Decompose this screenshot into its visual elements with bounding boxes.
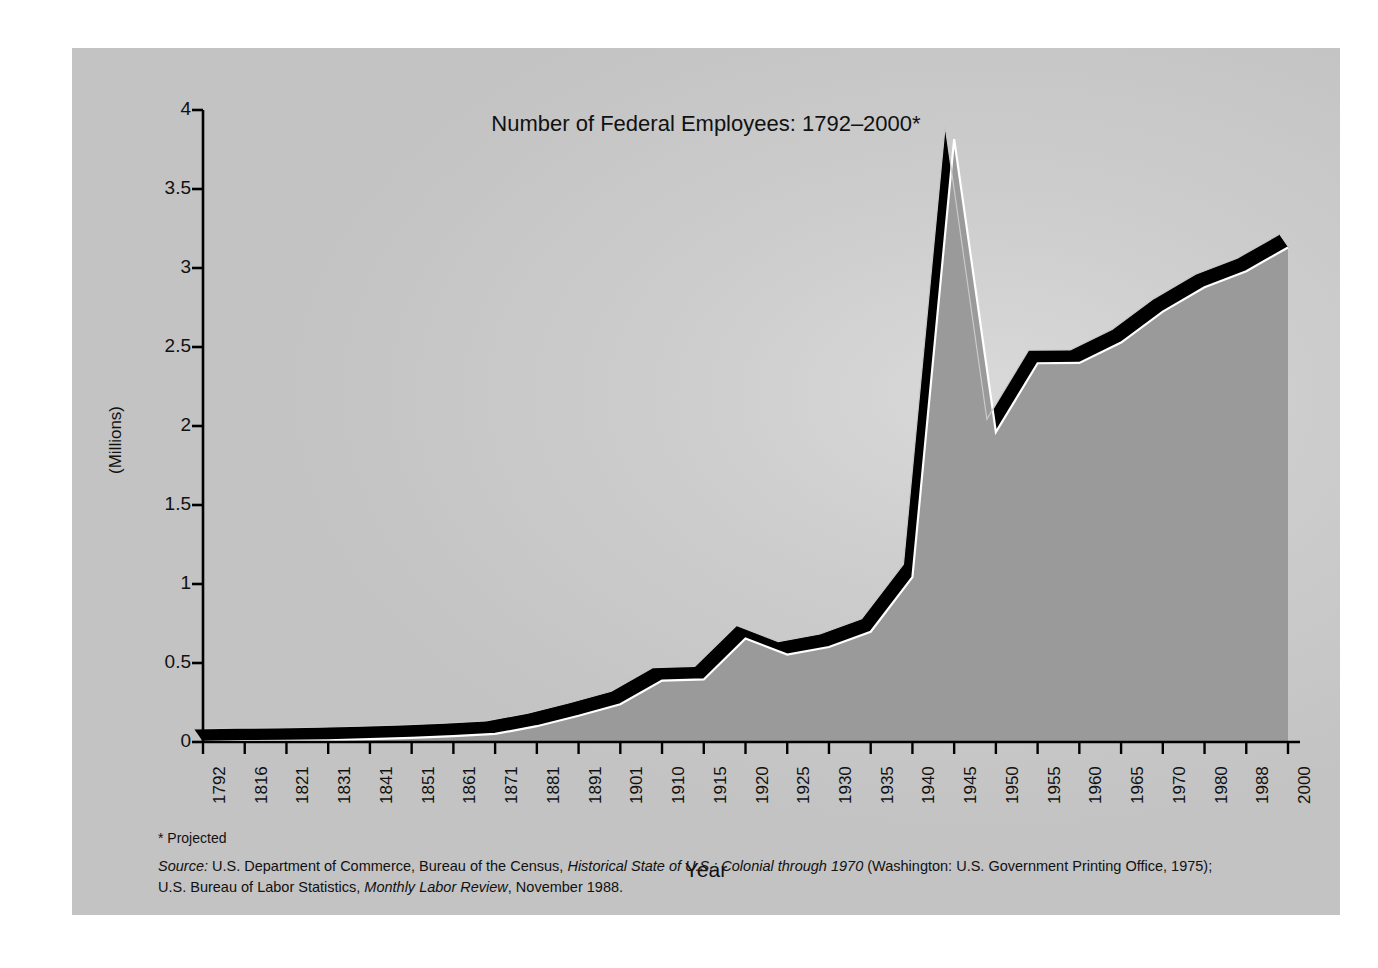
source-line-2: U.S. Bureau of Labor Statistics, Monthly… bbox=[158, 877, 1338, 898]
projected-footnote: * Projected bbox=[158, 830, 226, 846]
x-tick-label: 1980 bbox=[1212, 766, 1232, 804]
x-tick-label: 1851 bbox=[419, 766, 439, 804]
y-tick-label: 0 bbox=[131, 730, 191, 752]
y-tick-label: 0.5 bbox=[131, 651, 191, 673]
x-tick-label: 1935 bbox=[878, 766, 898, 804]
source-title-1: Historical State of U.S.: Colonial throu… bbox=[567, 858, 863, 874]
source-title-2: Monthly Labor Review bbox=[364, 879, 507, 895]
x-tick-label: 1988 bbox=[1253, 766, 1273, 804]
y-tick-label: 3 bbox=[131, 256, 191, 278]
source-line-2a: U.S. Bureau of Labor Statistics, bbox=[158, 879, 364, 895]
x-tick-label: 1960 bbox=[1086, 766, 1106, 804]
x-tick-label: 1792 bbox=[210, 766, 230, 804]
y-tick-label: 3.5 bbox=[131, 177, 191, 199]
x-tick-label: 1821 bbox=[293, 766, 313, 804]
y-tick-label: 4 bbox=[131, 98, 191, 120]
x-tick-label: 1950 bbox=[1003, 766, 1023, 804]
source-citation: Source: U.S. Department of Commerce, Bur… bbox=[158, 856, 1338, 898]
source-line-1: Source: U.S. Department of Commerce, Bur… bbox=[158, 856, 1338, 877]
x-tick-label: 1881 bbox=[544, 766, 564, 804]
chart-panel: Number of Federal Employees: 1792–2000* … bbox=[72, 48, 1340, 915]
source-line-1b: (Washington: U.S. Government Printing Of… bbox=[863, 858, 1212, 874]
x-tick-label: 1831 bbox=[335, 766, 355, 804]
source-label: Source: bbox=[158, 858, 208, 874]
source-line-2b: , November 1988. bbox=[508, 879, 623, 895]
x-tick-label: 1816 bbox=[252, 766, 272, 804]
x-tick-label: 1910 bbox=[669, 766, 689, 804]
y-tick-label: 2 bbox=[131, 414, 191, 436]
x-tick-label: 1901 bbox=[627, 766, 647, 804]
x-tick-label: 1861 bbox=[460, 766, 480, 804]
y-tick-label: 1.5 bbox=[131, 493, 191, 515]
x-tick-label: 1965 bbox=[1128, 766, 1148, 804]
x-tick-label: 1940 bbox=[919, 766, 939, 804]
source-line-1a: U.S. Department of Commerce, Bureau of t… bbox=[208, 858, 567, 874]
x-tick-label: 1871 bbox=[502, 766, 522, 804]
y-tick-label: 2.5 bbox=[131, 335, 191, 357]
x-tick-label: 1891 bbox=[586, 766, 606, 804]
x-tick-label: 1915 bbox=[711, 766, 731, 804]
x-tick-label: 1930 bbox=[836, 766, 856, 804]
x-tick-label: 1945 bbox=[961, 766, 981, 804]
x-tick-label: 1920 bbox=[753, 766, 773, 804]
area-front-face bbox=[203, 139, 1288, 742]
y-tick-label: 1 bbox=[131, 572, 191, 594]
series-layer bbox=[194, 126, 1288, 742]
x-tick-label: 1970 bbox=[1170, 766, 1190, 804]
y-axis-title: (Millions) bbox=[106, 406, 126, 474]
x-tick-label: 1925 bbox=[794, 766, 814, 804]
x-tick-label: 1841 bbox=[377, 766, 397, 804]
x-tick-label: 1955 bbox=[1045, 766, 1065, 804]
figure-page: Number of Federal Employees: 1792–2000* … bbox=[0, 0, 1378, 968]
x-tick-label: 2000 bbox=[1295, 766, 1315, 804]
